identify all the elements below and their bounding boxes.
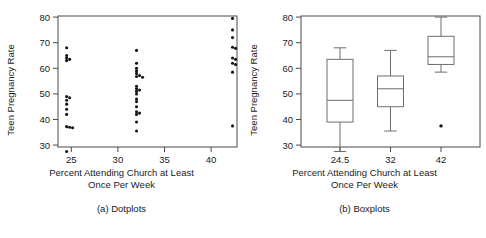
dotplot-x-axis-title: Percent Attending Church at Least Once P…	[0, 167, 243, 191]
dot-point	[135, 113, 138, 116]
boxplot-boxes	[327, 17, 454, 151]
dot-point	[234, 63, 237, 66]
dot-point	[231, 62, 234, 65]
boxplot-canvas: Teen Pregnancy Rate 80 70 60 50 40 30	[243, 0, 486, 175]
dot-point	[65, 150, 68, 153]
dotplot-x-axis-title-line1: Percent Attending Church at Least	[0, 167, 243, 179]
dotplot-x-axis: 25 30 35 40	[66, 147, 216, 165]
dot-point	[135, 121, 138, 124]
dot-point	[138, 89, 141, 92]
panel-dotplots: Teen Pregnancy Rate 80 70 60 50 40 30	[0, 0, 243, 238]
dot-point	[231, 28, 234, 31]
dot-point	[135, 72, 138, 75]
boxplot-xtick-24-5: 24.5	[331, 154, 350, 165]
dot-point	[231, 36, 234, 39]
boxplot-y-axis: 80 70 60 50 40 30	[282, 12, 301, 151]
boxplot-x-axis: 24.5 32 42	[331, 147, 447, 165]
boxplot-ytick-80: 80	[282, 12, 293, 23]
boxplot-ytick-70: 70	[282, 37, 293, 48]
dot-point	[231, 17, 234, 20]
dot-point	[231, 46, 234, 49]
boxplot-x-axis-title: Percent Attending Church at Least Once P…	[243, 167, 486, 191]
dotplot-ytick-30: 30	[39, 140, 50, 151]
outlier-point	[439, 124, 442, 127]
boxplot-y-axis-title: Teen Pregnancy Rate	[248, 44, 259, 135]
boxplot-ytick-60: 60	[282, 63, 293, 74]
dot-point	[234, 47, 237, 50]
dot-point	[135, 62, 138, 65]
dot-point	[65, 46, 68, 49]
dot-point	[135, 75, 138, 78]
dot-point	[135, 49, 138, 52]
dotplot-canvas: Teen Pregnancy Rate 80 70 60 50 40 30	[0, 0, 243, 175]
iqr-box	[378, 76, 404, 107]
dot-point	[231, 124, 234, 127]
boxplot-x-axis-title-line2: Once Per Week	[243, 179, 486, 191]
dotplot-x-axis-title-line2: Once Per Week	[0, 179, 243, 191]
dot-point	[71, 126, 74, 129]
boxplot-xtick-42: 42	[436, 154, 447, 165]
figure-two-panel: Teen Pregnancy Rate 80 70 60 50 40 30	[0, 0, 486, 238]
dotplot-xtick-25: 25	[66, 154, 77, 165]
dotplot-plot-frame	[58, 16, 237, 147]
dot-point	[135, 105, 138, 108]
dotplot-ytick-40: 40	[39, 114, 50, 125]
dot-point	[231, 71, 234, 74]
boxplot-ytick-40: 40	[282, 114, 293, 125]
dot-point	[68, 96, 71, 99]
dot-point	[65, 108, 68, 111]
dotplot-ytick-80: 80	[39, 12, 50, 23]
dot-point	[65, 95, 68, 98]
boxplot-xtick-32: 32	[385, 154, 396, 165]
dot-point	[65, 99, 68, 102]
dot-point	[234, 58, 237, 61]
dotplot-data-points	[65, 17, 237, 153]
dot-point	[138, 74, 141, 77]
dot-point	[65, 103, 68, 106]
iqr-box	[327, 59, 353, 122]
dotplot-xtick-40: 40	[206, 154, 217, 165]
boxplot-ytick-30: 30	[282, 140, 293, 151]
dot-point	[68, 126, 71, 129]
dotplot-y-axis: 80 70 60 50 40 30	[39, 12, 58, 151]
dotplot-ytick-60: 60	[39, 63, 50, 74]
dot-point	[138, 112, 141, 115]
dot-point	[231, 57, 234, 60]
dotplot-xtick-30: 30	[113, 154, 124, 165]
panel-boxplots: Teen Pregnancy Rate 80 70 60 50 40 30	[243, 0, 486, 238]
dot-point	[141, 76, 144, 79]
dot-point	[65, 59, 68, 62]
iqr-box	[428, 36, 454, 64]
boxplot-x-axis-title-line1: Percent Attending Church at Least	[243, 167, 486, 179]
dot-point	[65, 113, 68, 116]
dot-point	[65, 125, 68, 128]
dot-point	[135, 129, 138, 132]
dot-point	[135, 100, 138, 103]
dotplot-xtick-35: 35	[159, 154, 170, 165]
dotplot-ytick-70: 70	[39, 37, 50, 48]
dotplot-y-axis-title: Teen Pregnancy Rate	[5, 44, 16, 135]
dotplot-caption: (a) Dotplots	[0, 203, 243, 215]
dot-point	[135, 92, 138, 95]
dotplot-ytick-50: 50	[39, 88, 50, 99]
boxplot-caption: (b) Boxplots	[243, 203, 486, 215]
dot-point	[68, 58, 71, 61]
boxplot-ytick-50: 50	[282, 88, 293, 99]
